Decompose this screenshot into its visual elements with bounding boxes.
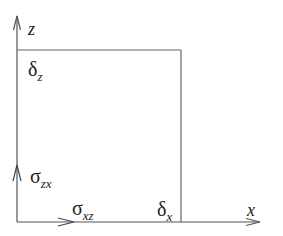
delta-z-subscript: z: [37, 69, 42, 84]
sigma-zx-symbol: σ: [30, 165, 41, 187]
sigma-xz-label: σxz: [72, 198, 94, 218]
z-axis-label: z: [28, 20, 35, 38]
sigma-zx-label: σzx: [30, 166, 52, 186]
sigma-xz-symbol: σ: [72, 197, 83, 219]
x-axis-label: x: [247, 201, 255, 219]
delta-x-subscript: x: [166, 209, 172, 224]
delta-x-label: δx: [157, 199, 172, 219]
sigma-zx-subscript: zx: [41, 176, 52, 191]
sigma-xz-subscript: xz: [83, 208, 94, 223]
delta-z-label: δz: [28, 59, 43, 79]
diagram-canvas: [0, 0, 283, 236]
